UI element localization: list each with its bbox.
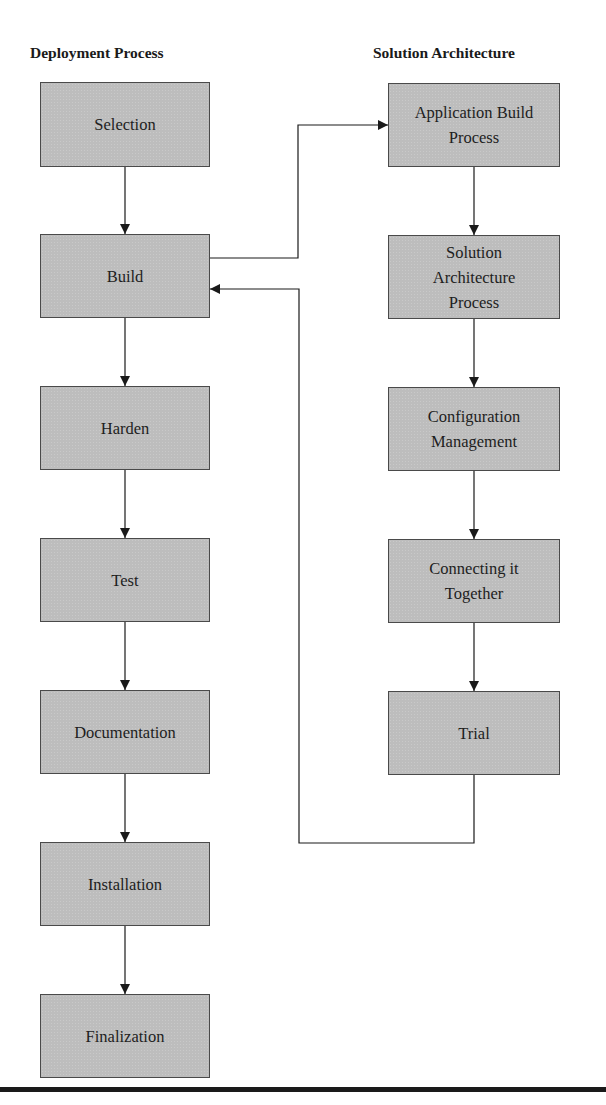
deployment-step-finalization: Finalization — [40, 994, 210, 1078]
architecture-step-configuration-management: Configuration Management — [388, 387, 560, 471]
deployment-step-test: Test — [40, 538, 210, 622]
deployment-step-selection: Selection — [40, 82, 210, 167]
deployment-step-build: Build — [40, 234, 210, 318]
architecture-step-solution-architecture-process: Solution Architecture Process — [388, 235, 560, 319]
architecture-step-application-build-process: Application Build Process — [388, 83, 560, 167]
architecture-step-connecting-it-together: Connecting it Together — [388, 539, 560, 623]
deployment-step-documentation: Documentation — [40, 690, 210, 774]
bottom-rule — [0, 1087, 606, 1092]
deployment-step-harden: Harden — [40, 386, 210, 470]
architecture-step-trial: Trial — [388, 691, 560, 775]
deployment-step-installation: Installation — [40, 842, 210, 926]
